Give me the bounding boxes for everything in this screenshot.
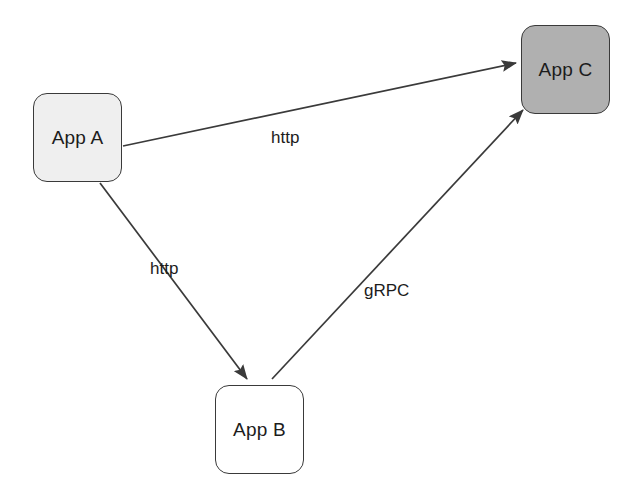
node-app-a[interactable]: App A xyxy=(33,93,122,182)
edge-label-app-a-to-app-b: http xyxy=(150,260,178,277)
edge-app-a-to-app-c xyxy=(123,63,516,146)
edge-label-app-a-to-app-c: http xyxy=(271,129,299,146)
edge-label-app-b-to-app-c: gRPC xyxy=(364,282,409,299)
diagram-canvas: App A App B App C http http gRPC xyxy=(0,0,635,494)
node-app-c[interactable]: App C xyxy=(521,25,610,114)
edge-app-a-to-app-b xyxy=(100,183,247,379)
node-app-b-label: App B xyxy=(233,420,286,439)
node-app-a-label: App A xyxy=(52,128,104,147)
node-app-b[interactable]: App B xyxy=(215,385,304,474)
edge-app-b-to-app-c xyxy=(272,110,523,379)
node-app-c-label: App C xyxy=(539,60,593,79)
